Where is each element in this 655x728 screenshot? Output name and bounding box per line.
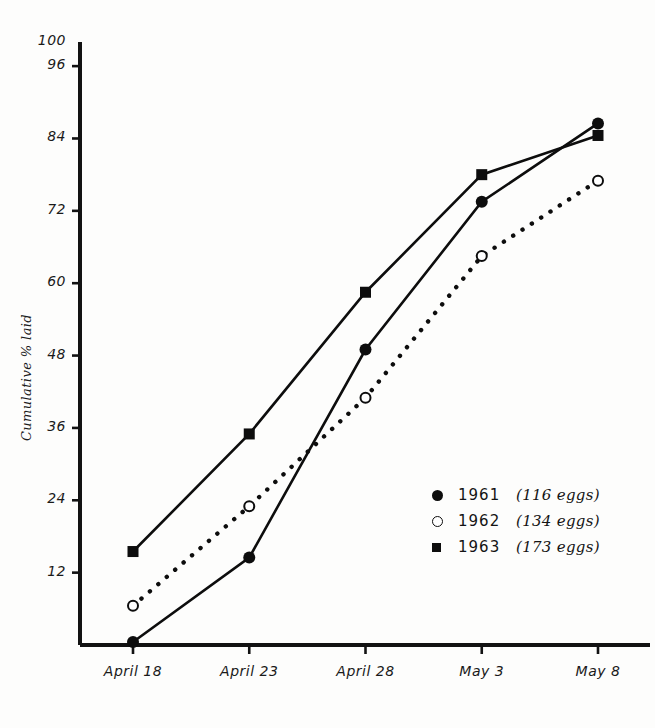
- x-axis-tick-label: May8: [538, 663, 655, 679]
- y-axis-title: Cumulative % laid: [19, 293, 34, 463]
- data-point-square: [593, 130, 604, 141]
- data-point-open-circle: [477, 251, 487, 261]
- series-1961: [127, 117, 604, 648]
- x-axis-tick-month: April: [336, 663, 371, 679]
- y-axis-tick-label: 96: [26, 56, 66, 72]
- chart-legend: 1961(116 eggs)1962(134 eggs)1963(173 egg…: [432, 482, 600, 560]
- legend-egg-count: (134 eggs): [516, 512, 600, 530]
- legend-year-label: 1962: [458, 512, 510, 530]
- y-axis-tick-label: 24: [26, 490, 66, 506]
- legend-marker-filled-circle-icon: [432, 490, 458, 501]
- x-axis-tick-day: 28: [376, 663, 395, 679]
- data-point-filled-circle: [476, 196, 488, 208]
- y-axis-tick-label: 12: [26, 563, 66, 579]
- x-axis-tick-month: April: [220, 663, 255, 679]
- legend-egg-count: (116 eggs): [516, 486, 600, 504]
- legend-marker-filled-square-icon: [432, 543, 458, 552]
- x-axis-tick-label: May3: [422, 663, 542, 679]
- plot-area: [0, 0, 655, 728]
- legend-year-label: 1961: [458, 486, 510, 504]
- legend-item-1961: 1961(116 eggs): [432, 482, 600, 508]
- series-line-1961: [133, 123, 598, 642]
- x-axis-tick-day: 23: [260, 663, 279, 679]
- data-point-square: [476, 169, 487, 180]
- legend-marker-open-circle-icon: [432, 516, 458, 527]
- data-point-filled-circle: [360, 344, 372, 356]
- x-axis-tick-day: 18: [143, 663, 162, 679]
- data-point-filled-circle: [243, 552, 255, 564]
- x-axis-tick-month: May: [576, 663, 606, 679]
- x-axis-tick-label: April23: [189, 663, 309, 679]
- legend-item-1962: 1962(134 eggs): [432, 508, 600, 534]
- legend-egg-count: (173 eggs): [516, 538, 600, 556]
- data-point-square: [128, 546, 139, 557]
- data-point-filled-circle: [592, 117, 604, 129]
- x-axis-tick-month: May: [459, 663, 489, 679]
- chart-series: [127, 117, 604, 648]
- data-point-open-circle: [244, 501, 254, 511]
- x-axis-tick-label: April28: [306, 663, 426, 679]
- x-axis-tick-day: 8: [611, 663, 620, 679]
- x-axis-tick-day: 3: [495, 663, 504, 679]
- data-point-square: [360, 287, 371, 298]
- x-axis-tick-label: April18: [73, 663, 193, 679]
- filled-circle-icon: [432, 490, 443, 501]
- data-point-open-circle: [128, 601, 138, 611]
- data-point-filled-circle: [127, 636, 139, 648]
- y-axis-tick-label: 72: [26, 201, 66, 217]
- y-axis-tick-label: 100: [26, 32, 66, 48]
- open-circle-icon: [432, 516, 443, 527]
- data-point-square: [244, 428, 255, 439]
- x-axis-tick-month: April: [104, 663, 139, 679]
- legend-year-label: 1963: [458, 538, 510, 556]
- y-axis-tick-label: 60: [26, 273, 66, 289]
- data-point-open-circle: [593, 176, 603, 186]
- y-axis-tick-label: 84: [26, 128, 66, 144]
- data-point-open-circle: [361, 393, 371, 403]
- chart-figure: 1009684726048362412 April18April23April2…: [0, 0, 655, 728]
- legend-item-1963: 1963(173 eggs): [432, 534, 600, 560]
- filled-square-icon: [432, 543, 441, 552]
